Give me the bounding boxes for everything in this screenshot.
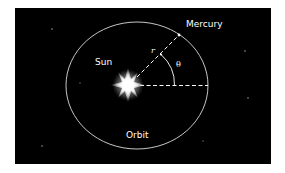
star	[202, 140, 203, 141]
star	[244, 50, 245, 51]
mercury	[178, 34, 181, 37]
stars	[41, 28, 248, 146]
radius-label: r	[151, 47, 155, 55]
orbit-label: Orbit	[126, 131, 149, 140]
angle-label: θ	[176, 61, 181, 69]
mercury-label: Mercury	[186, 20, 222, 29]
sun-label: Sun	[95, 58, 112, 67]
star	[247, 97, 248, 98]
star	[79, 82, 80, 83]
sun	[110, 67, 146, 103]
star	[41, 145, 42, 146]
star	[51, 28, 52, 29]
arc-start-dot	[160, 53, 162, 55]
orbit-diagram	[0, 0, 285, 173]
angle-arc-theta	[161, 55, 175, 86]
